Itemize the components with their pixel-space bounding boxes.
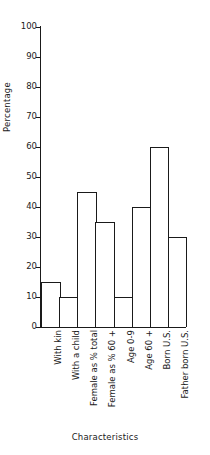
x-tick-label: Father born U.S. xyxy=(181,330,190,399)
y-tick-label: 50 xyxy=(26,171,37,182)
bar xyxy=(59,297,79,327)
x-tick: With a child xyxy=(59,330,77,426)
y-tick-label: 10 xyxy=(26,291,37,302)
bar xyxy=(41,282,61,327)
x-axis-title: Characteristics xyxy=(0,432,210,442)
plot-area: 0102030405060708090100 xyxy=(40,26,186,328)
x-tick: Age 0-9 xyxy=(114,330,132,426)
y-tick-label: 40 xyxy=(26,201,37,212)
y-tick-label: 70 xyxy=(26,111,37,122)
x-tick: With kin xyxy=(41,330,59,426)
y-tick-label: 100 xyxy=(21,21,37,32)
x-axis-tick-labels: With kinWith a childFemale as % totalFem… xyxy=(41,330,186,426)
y-tick-label: 20 xyxy=(26,261,37,272)
bar xyxy=(132,207,152,327)
x-tick: Female as % total xyxy=(77,330,95,426)
x-tick: Female as % 60 + xyxy=(95,330,113,426)
bar-series xyxy=(41,27,186,327)
bar xyxy=(150,147,170,327)
bar xyxy=(168,237,188,327)
y-tick-label: 80 xyxy=(26,81,37,92)
bar xyxy=(95,222,115,327)
y-tick-label: 60 xyxy=(26,141,37,152)
y-tick-label: 90 xyxy=(26,51,37,62)
bar-chart-figure: Percentage 0102030405060708090100 With k… xyxy=(0,0,210,455)
x-tick: Age 60 + xyxy=(132,330,150,426)
x-tick: Father born U.S. xyxy=(168,330,186,426)
bar xyxy=(114,297,134,327)
bar xyxy=(77,192,97,327)
y-tick-label: 30 xyxy=(26,231,37,242)
y-tick-label: 0 xyxy=(32,321,37,332)
y-axis-title: Percentage xyxy=(2,52,14,162)
x-axis-line xyxy=(40,327,186,328)
x-tick: Born U.S. xyxy=(150,330,168,426)
